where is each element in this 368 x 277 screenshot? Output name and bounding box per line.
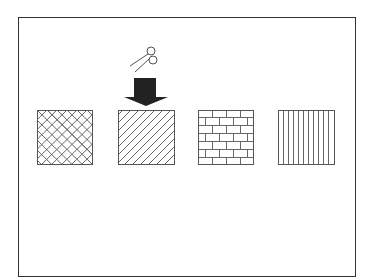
scissors-icon	[127, 45, 159, 79]
down-arrow-icon	[124, 78, 168, 110]
pattern-brick[interactable]	[198, 110, 254, 165]
pattern-vertical-lines[interactable]	[278, 110, 334, 165]
pattern-diagonal-lines[interactable]	[118, 110, 174, 165]
pattern-crosshatch[interactable]	[37, 110, 93, 165]
